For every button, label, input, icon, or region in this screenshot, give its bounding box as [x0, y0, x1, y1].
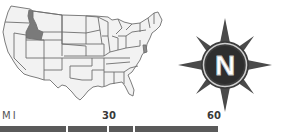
- scale-bar: [0, 126, 218, 132]
- compass-letter: N: [215, 50, 235, 81]
- state-dc-md-de: [143, 45, 147, 53]
- compass-rose-icon: N: [178, 18, 272, 112]
- us-outline: [3, 6, 162, 100]
- scale-tick: [66, 124, 68, 132]
- scale-label-30: 30: [102, 111, 116, 121]
- scale-tick: [107, 124, 109, 132]
- scale-unit-label: MI: [2, 111, 18, 121]
- scale-label-60: 60: [207, 111, 221, 121]
- us-map: [0, 0, 175, 104]
- scale-tick: [133, 124, 135, 132]
